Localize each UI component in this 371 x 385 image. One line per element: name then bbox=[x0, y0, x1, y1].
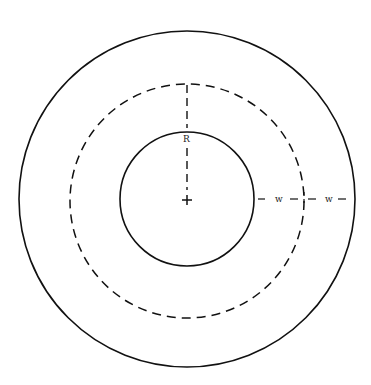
width-label-outer: w bbox=[325, 194, 333, 204]
radius-label: R bbox=[183, 134, 190, 144]
center-cross-icon bbox=[182, 195, 192, 205]
width-label-inner: w bbox=[275, 194, 283, 204]
diagram-canvas: R w w bbox=[0, 0, 371, 385]
